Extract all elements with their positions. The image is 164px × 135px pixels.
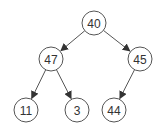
edge-arrow-47-to-3 <box>56 70 71 99</box>
node-label: 47 <box>44 53 58 67</box>
edge-arrow-40-to-45 <box>103 30 129 51</box>
node-label: 11 <box>20 104 33 118</box>
node-label: 40 <box>87 17 101 31</box>
tree-node: 45 <box>128 47 152 71</box>
edge-arrow-45-to-44 <box>120 70 135 99</box>
node-label: 45 <box>133 53 147 67</box>
node-label: 44 <box>107 104 121 118</box>
node-label: 3 <box>74 104 81 118</box>
tree-node: 3 <box>65 98 89 122</box>
tree-node: 11 <box>14 98 38 122</box>
edge-arrow-47-to-11 <box>32 70 46 99</box>
tree-node: 47 <box>39 47 63 71</box>
tree-diagram: 40474511344 <box>0 0 164 135</box>
edge-arrow-40-to-47 <box>61 31 85 51</box>
tree-node: 44 <box>102 98 126 122</box>
nodes: 40474511344 <box>14 11 152 122</box>
tree-node: 40 <box>82 11 106 35</box>
